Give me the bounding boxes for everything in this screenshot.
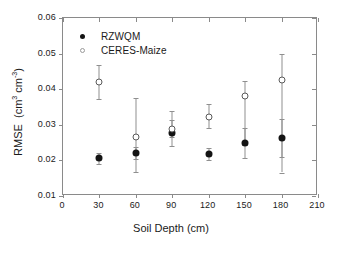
y-tick-label: 0.05 <box>22 48 56 58</box>
x-tick-mark <box>245 194 246 198</box>
x-tick-mark-top <box>136 18 137 22</box>
error-bar-cap <box>206 160 211 161</box>
x-tick-mark <box>99 194 100 198</box>
error-bar-cap <box>133 172 138 173</box>
error-bar <box>245 81 246 144</box>
y-tick-mark-right <box>312 54 316 55</box>
legend-item-rzwqm: RZWQM <box>73 29 167 43</box>
y-tick-mark-right <box>312 160 316 161</box>
data-point-ceres-maize <box>242 93 249 100</box>
error-bar-cap <box>170 146 175 147</box>
data-point-ceres-maize <box>278 76 285 83</box>
error-bar-cap <box>97 99 102 100</box>
error-bar-cap <box>133 98 138 99</box>
open-circle-icon <box>73 48 91 53</box>
chart-legend: RZWQM CERES-Maize <box>73 29 167 57</box>
data-point-rzwqm <box>242 139 249 146</box>
y-tick-label: 0.01 <box>22 190 56 200</box>
rmse-vs-soil-depth-chart: RMSE (cm3 cm-3) 0.010.020.030.040.050.06… <box>0 0 342 254</box>
data-point-rzwqm <box>132 150 139 157</box>
x-tick-mark-top <box>282 18 283 22</box>
error-bar-cap <box>206 148 211 149</box>
x-tick-mark-top <box>318 18 319 22</box>
error-bar-cap <box>279 173 284 174</box>
data-point-ceres-maize <box>169 126 176 133</box>
data-point-rzwqm <box>278 134 285 141</box>
x-tick-mark <box>209 194 210 198</box>
data-point-rzwqm <box>205 150 212 157</box>
legend-item-ceres-maize: CERES-Maize <box>73 43 167 57</box>
error-bar-cap <box>97 65 102 66</box>
y-axis-title-text: RMSE (cm3 cm-3) <box>12 68 24 156</box>
error-bar-cap <box>170 111 175 112</box>
x-tick-mark-top <box>172 18 173 22</box>
y-tick-mark-right <box>312 89 316 90</box>
x-tick-label: 60 <box>130 200 140 210</box>
error-bar-cap <box>206 128 211 129</box>
error-bar-cap <box>97 153 102 154</box>
x-tick-label: 30 <box>93 200 103 210</box>
x-tick-label: 90 <box>166 200 176 210</box>
x-axis-title: Soil Depth (cm) <box>0 222 342 234</box>
x-tick-mark <box>318 194 319 198</box>
y-tick-label: 0.02 <box>22 154 56 164</box>
error-bar-cap <box>279 54 284 55</box>
y-tick-label: 0.03 <box>22 119 56 129</box>
error-bar <box>281 54 282 173</box>
y-tick-mark <box>59 160 63 161</box>
x-tick-mark-top <box>209 18 210 22</box>
x-tick-mark <box>63 194 64 198</box>
x-tick-mark <box>282 194 283 198</box>
data-point-ceres-maize <box>205 113 212 120</box>
y-tick-label: 0.04 <box>22 83 56 93</box>
error-bar-cap <box>206 104 211 105</box>
x-tick-mark <box>136 194 137 198</box>
error-bar-cap <box>170 137 175 138</box>
y-tick-mark <box>59 125 63 126</box>
y-tick-mark <box>59 89 63 90</box>
y-tick-mark-right <box>312 18 316 19</box>
x-tick-label: 210 <box>309 200 325 210</box>
y-tick-mark <box>59 196 63 197</box>
plot-area: RZWQM CERES-Maize <box>62 17 317 195</box>
data-point-rzwqm <box>96 155 103 162</box>
error-bar-cap <box>97 164 102 165</box>
x-tick-label: 150 <box>236 200 252 210</box>
y-tick-mark-right <box>312 125 316 126</box>
x-tick-mark-top <box>245 18 246 22</box>
data-point-ceres-maize <box>132 133 139 140</box>
x-tick-label: 120 <box>200 200 216 210</box>
y-tick-mark <box>59 54 63 55</box>
error-bar-cap <box>243 81 248 82</box>
legend-label: CERES-Maize <box>101 45 167 56</box>
y-tick-mark-right <box>312 196 316 197</box>
x-tick-mark <box>172 194 173 198</box>
y-tick-label: 0.06 <box>22 12 56 22</box>
data-point-ceres-maize <box>96 79 103 86</box>
y-tick-mark <box>59 18 63 19</box>
x-tick-label: 0 <box>59 200 64 210</box>
error-bar-cap <box>243 158 248 159</box>
legend-label: RZWQM <box>101 31 140 42</box>
filled-circle-icon <box>73 34 91 39</box>
x-tick-mark-top <box>99 18 100 22</box>
x-tick-mark-top <box>63 18 64 22</box>
x-tick-label: 180 <box>273 200 289 210</box>
